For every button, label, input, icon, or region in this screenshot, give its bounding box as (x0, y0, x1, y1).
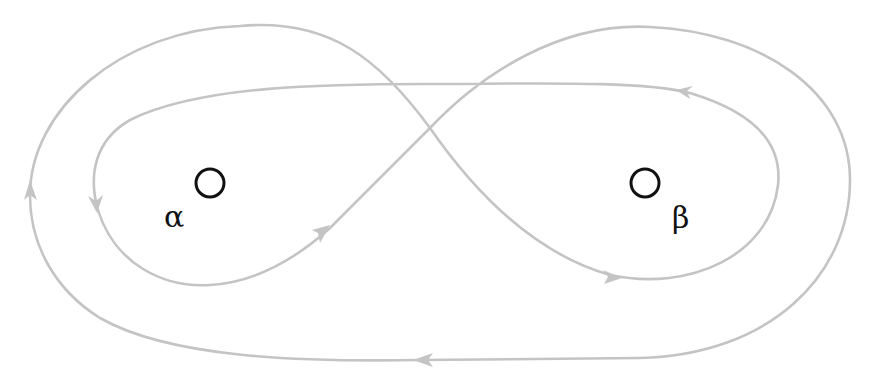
beta-label: β (672, 203, 689, 233)
diagram-canvas (0, 0, 883, 383)
arrow-right-icon (603, 270, 622, 284)
trajectory-curve (30, 25, 850, 360)
fixed-point-alpha-icon (196, 169, 224, 197)
fixed-point-beta-icon (631, 169, 659, 197)
alpha-label: α (164, 202, 184, 232)
